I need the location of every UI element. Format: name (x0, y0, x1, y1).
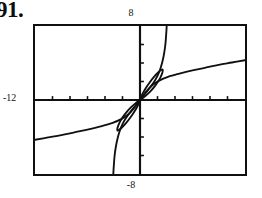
graph-plot (35, 26, 245, 174)
graphing-calculator-screen (33, 24, 247, 176)
screen-left-range-label: -12 (3, 93, 16, 103)
screen-bottom-range-label: -8 (0, 180, 262, 190)
screen-top-range-label: 8 (0, 8, 262, 18)
